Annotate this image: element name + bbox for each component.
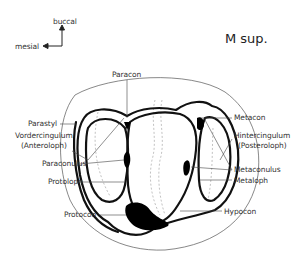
label-posteroloph: (Posteroloph) — [238, 142, 287, 150]
label-hypocon: Hypocon — [224, 208, 256, 216]
orientation-arrows — [43, 25, 65, 49]
label-metaconulus: Metaconulus — [234, 166, 281, 174]
label-hintercingulum: Hintercingulum — [234, 132, 290, 140]
mesial-label: mesial — [15, 43, 39, 51]
label-parastyl: Parastyl — [28, 120, 57, 128]
buccal-label: buccal — [53, 18, 77, 26]
label-paracon: Paracon — [112, 71, 141, 79]
label-protocon: Protocon — [64, 211, 96, 219]
label-protoloph: Protoloph — [48, 178, 83, 186]
label-metacon: Metacon — [234, 114, 265, 122]
label-vordercingulum: Vordercingulum — [15, 132, 73, 140]
label-paraconulus: Paraconulus — [42, 160, 86, 168]
label-metaloph: Metaloph — [234, 177, 268, 185]
label-anteroloph: (Anteroloph) — [21, 142, 67, 150]
page-title: M sup. — [225, 32, 268, 45]
